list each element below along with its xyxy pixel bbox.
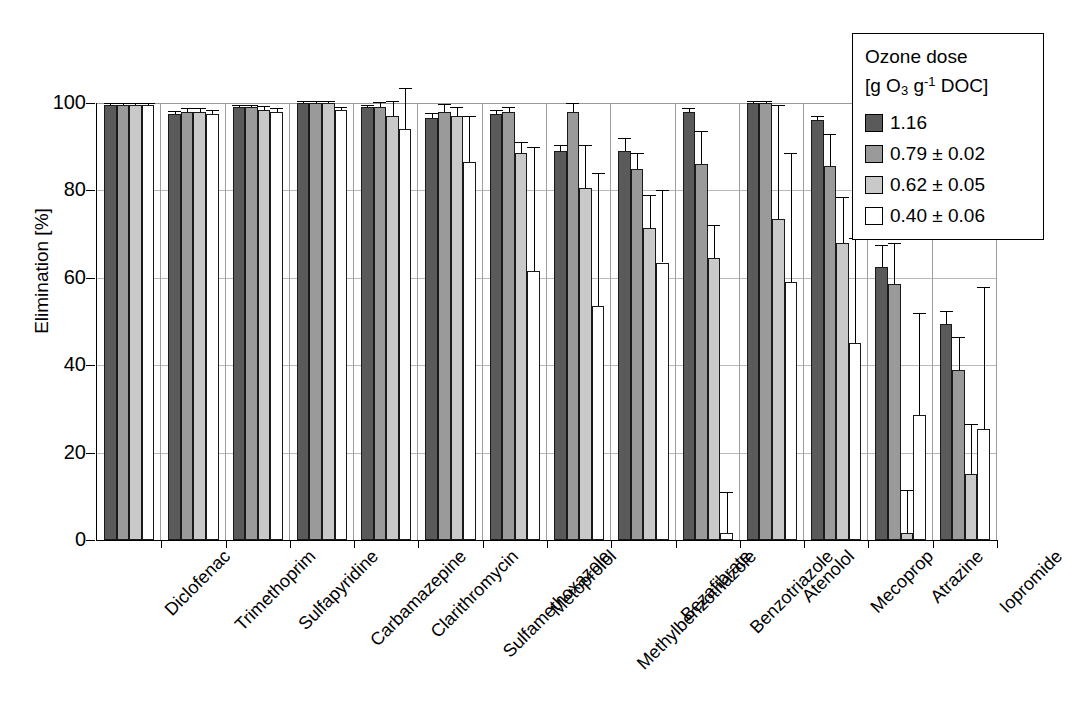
bar xyxy=(579,188,592,540)
bar xyxy=(335,110,348,540)
error-bar-cap xyxy=(206,110,219,111)
error-bar-cap xyxy=(977,287,990,288)
error-bar-cap xyxy=(270,108,283,109)
y-tick-label: 40 xyxy=(42,354,86,374)
error-bar-line xyxy=(701,131,702,164)
error-bar-cap xyxy=(193,108,206,109)
y-tick-mark xyxy=(86,278,95,279)
legend-label: 1.16 xyxy=(890,112,927,134)
bar xyxy=(643,228,656,540)
error-bar-line xyxy=(727,492,728,534)
legend-label: 0.62 ± 0.05 xyxy=(890,174,985,196)
error-bar-line xyxy=(882,245,883,267)
y-tick-label: 80 xyxy=(42,179,86,199)
bar xyxy=(785,282,798,540)
bar-group xyxy=(747,103,797,540)
y-tick-label: 100 xyxy=(42,92,86,112)
category-separator xyxy=(482,103,483,540)
category-separator xyxy=(803,103,804,540)
bar xyxy=(258,110,271,540)
error-bar-cap xyxy=(900,490,913,491)
error-bar-line xyxy=(791,153,792,282)
error-bar-line xyxy=(625,138,626,151)
error-bar-cap xyxy=(811,116,824,117)
bar xyxy=(811,120,824,540)
bar xyxy=(374,107,387,540)
bar xyxy=(554,151,567,540)
bar xyxy=(425,118,438,540)
bar-group xyxy=(168,103,218,540)
legend-title-line1: Ozone dose xyxy=(865,44,1033,69)
error-bar-cap xyxy=(618,138,631,139)
error-bar-cap xyxy=(168,111,181,112)
error-bar-cap xyxy=(104,103,117,104)
bar xyxy=(952,370,965,540)
error-bar-cap xyxy=(438,104,451,105)
bar xyxy=(117,105,130,540)
error-bar-cap xyxy=(425,113,438,114)
y-tick-label: 20 xyxy=(42,442,86,462)
bar-group xyxy=(233,103,283,540)
x-tick-label: Atrazine xyxy=(927,546,989,608)
bar-group xyxy=(425,103,475,540)
bar xyxy=(270,112,283,540)
error-bar-cap xyxy=(566,103,579,104)
bar xyxy=(438,112,451,540)
bar-group xyxy=(490,103,540,540)
legend-label: 0.40 ± 0.06 xyxy=(890,205,985,227)
x-tick-label: Mecoprop xyxy=(866,546,937,617)
category-separator xyxy=(417,103,418,540)
error-bar-line xyxy=(405,88,406,130)
category-separator xyxy=(546,103,547,540)
error-bar-cap xyxy=(334,107,347,108)
y-tick-mark xyxy=(86,540,95,541)
error-bar-cap xyxy=(386,101,399,102)
error-bar-cap xyxy=(322,101,335,102)
bar xyxy=(129,105,142,540)
error-bar-cap xyxy=(515,142,528,143)
error-bar-line xyxy=(573,103,574,112)
legend: Ozone dose [g O3 g-1 DOC] 1.160.79 ± 0.0… xyxy=(852,33,1044,240)
legend-entries: 1.160.79 ± 0.020.62 ± 0.050.40 ± 0.06 xyxy=(865,112,1033,227)
legend-item: 0.79 ± 0.02 xyxy=(865,143,1033,165)
error-bar-line xyxy=(598,173,599,306)
bar-group xyxy=(618,103,668,540)
error-bar-line xyxy=(714,225,715,258)
error-bar-cap xyxy=(913,313,926,314)
error-bar-cap xyxy=(888,243,901,244)
legend-swatch-icon xyxy=(865,145,883,163)
y-tick-mark xyxy=(86,365,95,366)
bar xyxy=(759,103,772,540)
bar xyxy=(451,116,464,540)
bar xyxy=(618,151,631,540)
bar xyxy=(772,219,785,540)
bar xyxy=(965,474,978,540)
error-bar-cap xyxy=(772,105,785,106)
bar xyxy=(824,166,837,540)
bar xyxy=(142,105,155,540)
category-separator xyxy=(739,103,740,540)
error-bar-cap xyxy=(297,101,310,102)
error-bar-cap xyxy=(502,107,515,108)
error-bar-line xyxy=(959,337,960,370)
bar xyxy=(849,343,862,540)
category-separator xyxy=(675,103,676,540)
error-bar-line xyxy=(457,107,458,116)
category-separator xyxy=(289,103,290,540)
bar xyxy=(567,112,580,540)
x-tick-label: Diclofenac xyxy=(160,546,234,620)
bar-group xyxy=(297,103,347,540)
error-bar-cap xyxy=(373,102,386,103)
error-bar-cap xyxy=(940,311,953,312)
error-bar-line xyxy=(919,313,920,416)
error-bar-line xyxy=(946,311,947,324)
error-bar-cap xyxy=(490,110,503,111)
error-bar-cap xyxy=(309,101,322,102)
bar xyxy=(399,129,412,540)
legend-item: 1.16 xyxy=(865,112,1033,134)
category-separator xyxy=(160,103,161,540)
legend-item: 0.40 ± 0.06 xyxy=(865,205,1033,227)
error-bar-cap xyxy=(682,108,695,109)
error-bar-cap xyxy=(784,153,797,154)
error-bar-cap xyxy=(643,195,656,196)
